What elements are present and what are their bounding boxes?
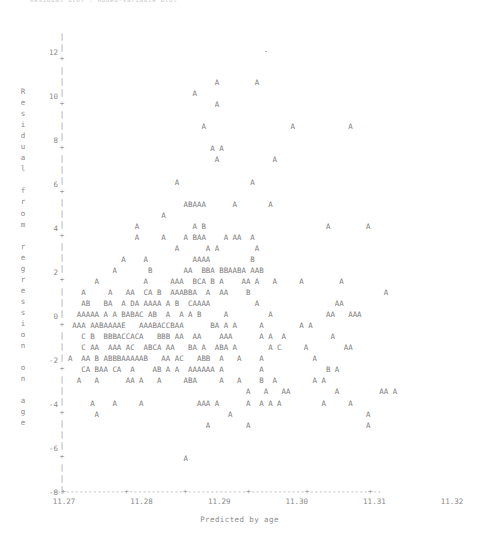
x-axis-label: Predicted by age [0, 515, 479, 524]
plot-row: A AA B ABBBAAAAAB AA AC ABB A A A A [59, 353, 428, 364]
residual-plot: Residual plot : Added-Variable plot R e … [0, 0, 479, 535]
plot-row: A A AA CA B AAABBA A AA B A [59, 287, 428, 298]
plot-row: A A A [59, 409, 428, 420]
plot-row: A B AA BBA BBAABA AAB [59, 265, 428, 276]
y-tick-label: -2 [20, 356, 58, 365]
plot-row: A A AAAA B [59, 254, 428, 265]
plot-row: A A [59, 143, 428, 154]
plot-row [59, 166, 428, 177]
plot-row [59, 188, 428, 199]
y-tick-label: 0 [20, 312, 58, 321]
plot-row [59, 464, 428, 475]
plot-row [59, 431, 428, 442]
x-tick-label: 11.32 [441, 497, 464, 506]
y-tick-label: 10 [20, 92, 58, 101]
plot-row: AB BA A DA AAAA A B CAAAA A AA [59, 298, 428, 309]
plot-row: A [59, 88, 428, 99]
plot-row [59, 475, 428, 486]
plot-row: A [59, 99, 428, 110]
y-axis-ticks: 121086420-2-4-6-8 [14, 0, 58, 500]
plot-row: A A A BAA A AA A [59, 232, 428, 243]
x-axis-ticks: 11.2711.2811.2911.3011.3111.32 [0, 497, 479, 511]
x-tick-label: 11.30 [286, 497, 309, 506]
plot-row [59, 132, 428, 143]
plot-row [59, 55, 428, 66]
plot-row: A A [59, 177, 428, 188]
plot-row: C AA AAA AC ABCA AA BA A ABA A A C A AA [59, 342, 428, 353]
x-tick-label: 11.29 [208, 497, 231, 506]
y-tick-label: -6 [20, 444, 58, 453]
x-tick-label: 11.28 [130, 497, 153, 506]
plot-row [59, 442, 428, 453]
y-tick-label: 12 [20, 48, 58, 57]
plot-row: A A A [59, 420, 428, 431]
plot-row: A A [59, 77, 428, 88]
plot-row: C B BBBACCACA BBB AA AA AAA A A A A [59, 331, 428, 342]
plot-row: A A AA A AA A [59, 386, 428, 397]
y-tick-label: 6 [20, 180, 58, 189]
plot-row: A A A AAA A A A A A A A [59, 398, 428, 409]
plot-row: CA BAA CA A AB A A AAAAAA A A B A [59, 364, 428, 375]
y-tick-label: 8 [20, 136, 58, 145]
plot-row: . [59, 44, 428, 55]
y-axis-spine-segment: | [57, 32, 67, 41]
plot-row: A A B A A [59, 221, 428, 232]
plot-row: AAAAA A A BABAC AB A A A B A A AA AAA [59, 309, 428, 320]
x-axis-spine: --+-------------+------------+----------… [52, 487, 382, 496]
y-tick-label: 2 [20, 268, 58, 277]
plot-row: AAA AABAAAAE AAABACCBAA BA A A A A A [59, 320, 428, 331]
y-tick-label: 4 [20, 224, 58, 233]
plot-row: A A AA A A ABA A A B A A A [59, 375, 428, 386]
plot-row: ABAAA A A [59, 199, 428, 210]
plot-row [59, 66, 428, 77]
plot-row: A A AAA BCA B A AA A A A A [59, 276, 428, 287]
plot-data-area: . [59, 44, 428, 486]
x-tick-label: 11.27 [53, 497, 76, 506]
plot-row: A A A [59, 121, 428, 132]
plot-row: A [59, 453, 428, 464]
plot-row [59, 110, 428, 121]
y-tick-label: -4 [20, 400, 58, 409]
plot-row: A A [59, 154, 428, 165]
plot-row: A [59, 210, 428, 221]
plot-row: A A A A [59, 243, 428, 254]
x-tick-label: 11.31 [363, 497, 386, 506]
